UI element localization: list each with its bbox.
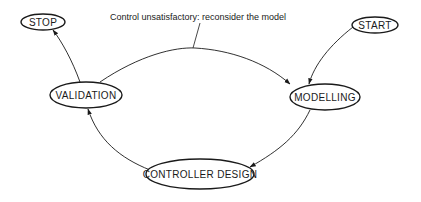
node-controller-design-label: CONTROLLER DESIGN: [143, 169, 258, 180]
node-controller-design: CONTROLLER DESIGN: [143, 159, 258, 189]
node-stop: STOP: [21, 14, 65, 30]
node-validation-label: VALIDATION: [56, 90, 117, 101]
edge-validation-to-modelling-feedback: [100, 48, 290, 84]
node-validation: VALIDATION: [50, 82, 122, 108]
node-stop-label: STOP: [29, 17, 57, 28]
node-modelling-label: MODELLING: [294, 92, 356, 103]
design-cycle-diagram: STOP START VALIDATION MODELLING CONTROLL…: [0, 0, 421, 202]
node-start: START: [352, 17, 398, 33]
edge-start-to-modelling: [309, 27, 353, 84]
node-start-label: START: [358, 20, 391, 31]
edge-validation-to-stop: [53, 30, 80, 82]
edge-modelling-to-controller-design: [250, 110, 310, 167]
diagram-svg: STOP START VALIDATION MODELLING CONTROLL…: [0, 0, 421, 202]
feedback-caption: Control unsatisfactory: reconsider the m…: [110, 12, 286, 22]
caption-leader-line: [193, 23, 200, 48]
edge-controller-design-to-validation: [88, 109, 150, 170]
node-modelling: MODELLING: [290, 84, 360, 110]
